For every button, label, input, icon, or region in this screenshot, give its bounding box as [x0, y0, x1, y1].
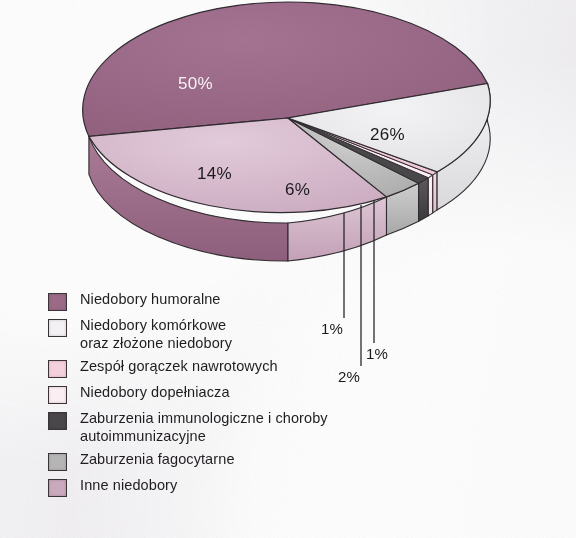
legend-item-phagocytic[interactable]: Zaburzenia fagocytarne	[48, 451, 548, 471]
slice-label-phagocytic: 6%	[285, 180, 310, 200]
slice-label-cellular: 26%	[370, 125, 405, 145]
legend-item-other[interactable]: Inne niedobory	[48, 477, 548, 497]
legend-label-complement: Niedobory dopełniacza	[80, 384, 230, 402]
pie-chart-figure: 50% 26% 14% 6% 1% 1% 2% Niedobory humora…	[0, 0, 576, 538]
legend-label-fever: Zespół gorączek nawrotowych	[80, 358, 278, 376]
slice-label-other: 14%	[197, 164, 232, 184]
wall-fever	[433, 172, 437, 213]
legend-swatch-phagocytic	[48, 453, 67, 471]
legend-label-autoimmune: Zaburzenia immunologiczne i choroby auto…	[80, 410, 328, 445]
legend-label-humoral: Niedobory humoralne	[80, 291, 221, 309]
slice-label-humoral: 50%	[178, 74, 213, 94]
legend-label-cellular: Niedobory komórkowe oraz złożone niedobo…	[80, 317, 232, 352]
legend-item-cellular[interactable]: Niedobory komórkowe oraz złożone niedobo…	[48, 317, 548, 352]
legend-swatch-other	[48, 479, 67, 497]
legend-item-complement[interactable]: Niedobory dopełniacza	[48, 384, 548, 404]
legend-item-fever[interactable]: Zespół gorączek nawrotowych	[48, 358, 548, 378]
legend-label-other: Inne niedobory	[80, 477, 177, 495]
legend-swatch-humoral	[48, 293, 67, 311]
wall-autoimmune	[419, 178, 429, 222]
legend-swatch-complement	[48, 386, 67, 404]
legend-swatch-fever	[48, 360, 67, 378]
chart-legend: Niedobory humoralne Niedobory komórkowe …	[48, 291, 548, 503]
legend-swatch-cellular	[48, 319, 67, 337]
legend-label-phagocytic: Zaburzenia fagocytarne	[80, 451, 235, 469]
legend-swatch-autoimmune	[48, 412, 67, 430]
legend-item-autoimmune[interactable]: Zaburzenia immunologiczne i choroby auto…	[48, 410, 548, 445]
legend-item-humoral[interactable]: Niedobory humoralne	[48, 291, 548, 311]
wall-complement	[428, 175, 433, 216]
